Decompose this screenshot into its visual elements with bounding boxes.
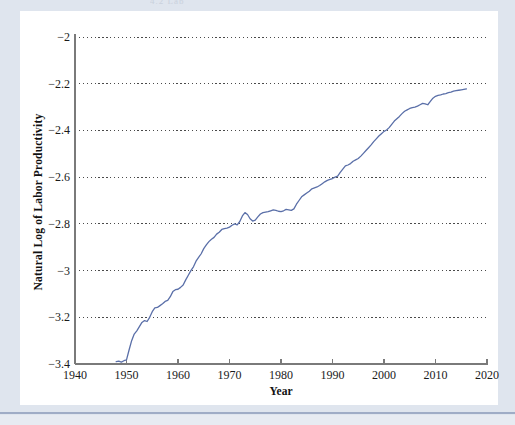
x-axis-ticks xyxy=(75,359,487,364)
page-bottom-band xyxy=(0,415,515,425)
x-axis-tick-labels: 194019501960197019801990200020102020 xyxy=(0,368,515,386)
data-series-line xyxy=(116,89,466,362)
gridlines xyxy=(75,37,487,317)
x-tick-label: 2020 xyxy=(457,368,515,383)
chart-plot-area: −2−2.2−2.4−2.6−2.8−3−3.2−3.4 19401950196… xyxy=(0,0,515,425)
y-axis-title: Natural Log of Labor Productivity xyxy=(32,52,44,352)
y-tick-label: −2 xyxy=(30,30,70,45)
line-chart-svg xyxy=(0,0,515,425)
x-axis-title: Year xyxy=(75,385,487,397)
page-rule-line xyxy=(0,412,515,414)
